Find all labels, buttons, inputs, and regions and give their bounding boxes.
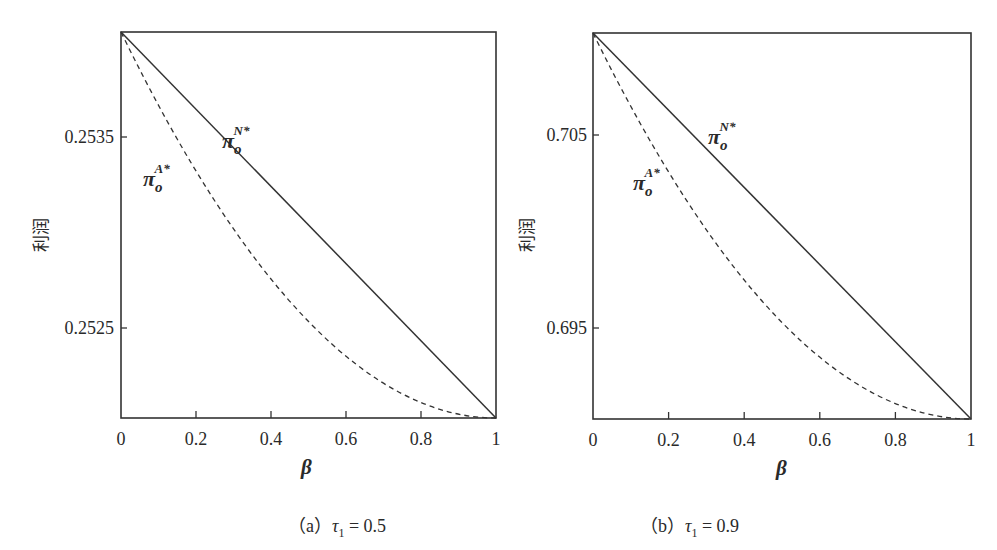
series-line-n-star bbox=[121, 32, 496, 418]
x-tick-label: 0.8 bbox=[875, 431, 915, 449]
subscript: 1 bbox=[691, 526, 697, 540]
x-tick-label: 0.6 bbox=[326, 430, 366, 448]
x-tick-label: 0.4 bbox=[724, 431, 764, 449]
caption-a: （a）τ1 = 0.5 bbox=[288, 511, 386, 537]
pi-symbol: π bbox=[708, 124, 720, 149]
x-tick-label: 0.8 bbox=[401, 430, 441, 448]
series-line-n-star bbox=[593, 33, 971, 419]
caption-value: = 0.5 bbox=[344, 516, 386, 536]
subscript: 1 bbox=[338, 526, 344, 540]
y-tick-label: 0.2535 bbox=[34, 128, 114, 146]
series-label-n-star: πoN* bbox=[708, 124, 743, 150]
subscript: o bbox=[155, 179, 163, 195]
series-label-n-star: πoN* bbox=[222, 128, 257, 154]
caption-value: = 0.9 bbox=[697, 516, 739, 536]
pi-symbol: π bbox=[222, 128, 234, 153]
pi-symbol: π bbox=[143, 166, 155, 191]
y-tick-label: 0.2525 bbox=[34, 319, 114, 337]
x-tick-label: 1 bbox=[951, 431, 991, 449]
x-tick-label: 0.4 bbox=[251, 430, 291, 448]
x-axis-label: β bbox=[301, 455, 312, 480]
superscript: A* bbox=[155, 161, 170, 176]
superscript: N* bbox=[234, 123, 250, 138]
y-tick-label: 0.705 bbox=[507, 126, 587, 144]
y-tick-label: 0.695 bbox=[507, 319, 587, 337]
superscript: N* bbox=[720, 119, 736, 134]
series-label-a-star: πoA* bbox=[143, 166, 178, 192]
subscript: o bbox=[234, 141, 242, 157]
caption-b: （b）τ1 = 0.9 bbox=[640, 511, 739, 537]
x-axis-label: β bbox=[776, 456, 787, 481]
x-tick-label: 0 bbox=[101, 430, 141, 448]
subscript: o bbox=[720, 137, 728, 153]
chart-panel-b: 0.705 0.695 0 0.2 0.4 0.6 0.8 1 利润 β πoN… bbox=[498, 0, 996, 550]
plot-area-b bbox=[498, 0, 997, 550]
x-tick-label: 0.2 bbox=[176, 430, 216, 448]
chart-panel-a: 0.2535 0.2525 0 0.2 0.4 0.6 0.8 1 利润 β π… bbox=[0, 0, 498, 550]
x-tick-label: 0.6 bbox=[800, 431, 840, 449]
y-axis-label: 利润 bbox=[513, 218, 538, 252]
plot-area-a bbox=[0, 0, 498, 550]
y-axis-label: 利润 bbox=[27, 218, 52, 252]
caption-prefix: （b） bbox=[640, 516, 685, 536]
subscript: o bbox=[645, 183, 653, 199]
pi-symbol: π bbox=[633, 170, 645, 195]
x-tick-label: 0.2 bbox=[649, 431, 689, 449]
superscript: A* bbox=[645, 165, 660, 180]
x-tick-label: 0 bbox=[573, 431, 613, 449]
caption-prefix: （a） bbox=[288, 516, 332, 536]
series-label-a-star: πoA* bbox=[633, 170, 668, 196]
